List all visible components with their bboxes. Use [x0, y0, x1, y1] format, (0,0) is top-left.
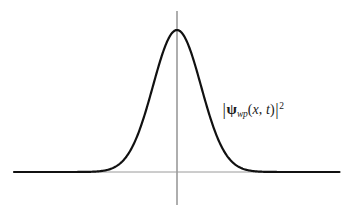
psi-symbol: ψ [227, 101, 237, 117]
paren-close: ) [270, 102, 275, 117]
psi-subscript: wp [237, 109, 248, 119]
curve-label: |ψwp(x, t)|2 [222, 101, 284, 120]
figure-container: |ψwp(x, t)|2 [0, 0, 347, 218]
square-exponent: 2 [279, 101, 284, 111]
argument-comma: , [259, 102, 266, 117]
plot-canvas [0, 0, 347, 218]
